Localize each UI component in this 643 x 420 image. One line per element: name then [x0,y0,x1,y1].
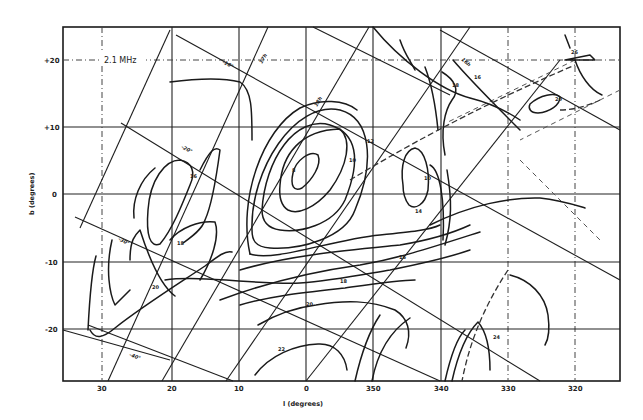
x-tick-label: 20 [167,385,177,393]
equatorial-labels: -10° -20° -30° -40° 17h 18h 16h [118,52,473,361]
y-tick-label: +20 [44,57,60,65]
y-axis-title: b (degrees) [28,173,36,215]
contour-label: 16 [190,173,197,179]
x-axis-title: l (degrees) [283,400,323,408]
contour-label: 20 [152,284,159,290]
eq-label: -20° [181,144,194,155]
frequency-label: 2.1 MHz [104,56,136,65]
y-tick-label: -10 [45,259,58,267]
contours [88,27,602,381]
eq-label: -40° [129,351,142,361]
galactic-grid [63,27,620,381]
contour-label: 8 [292,167,296,173]
contour-label: 10 [424,175,431,181]
x-tick-label: 10 [234,385,244,393]
eq-label: -30° [118,236,131,247]
plot-frame [63,27,620,381]
contour-map: 8 10 12 14 16 18 20 22 16 18 20 10 24 16… [0,0,643,420]
eq-label: 17h [258,52,269,64]
y-tick-label: +10 [44,124,60,132]
x-axis: 30 20 10 0 350 340 330 320 l (degrees) [97,385,583,408]
contour-label: 10 [349,157,356,163]
equatorial-grid [63,27,620,381]
contour-label: 18 [452,82,459,88]
contour-label: 18 [177,240,184,246]
eq-label: 16h [460,56,472,68]
x-tick-label: 30 [97,385,107,393]
x-tick-label: 320 [568,385,583,393]
x-tick-label: 340 [434,385,449,393]
contour-label: 22 [278,346,285,352]
contour-label: 18 [340,278,347,284]
contour-label: 12 [367,138,374,144]
y-axis: +20 +10 0 -10 -20 b (degrees) [28,57,60,334]
y-tick-label: -20 [45,326,58,334]
contour-label: 16 [399,254,406,260]
contour-label: 24 [493,334,500,340]
x-tick-label: 0 [304,385,309,393]
contour-label: 16 [474,74,481,80]
x-tick-label: 330 [501,385,516,393]
contour-label: 20 [555,96,562,102]
contour-label: 26 [571,49,578,55]
y-tick-label: 0 [52,191,57,199]
x-tick-label: 350 [366,385,381,393]
contour-label: 20 [306,301,313,307]
contour-label: 14 [415,208,422,214]
